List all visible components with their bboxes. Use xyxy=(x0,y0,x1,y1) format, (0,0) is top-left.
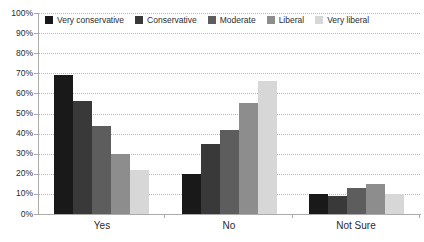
legend-swatch-icon xyxy=(315,16,323,24)
bar-moderate-yes xyxy=(92,126,111,214)
bar-very-conservative-no xyxy=(182,174,201,214)
bar-liberal-no xyxy=(239,103,258,214)
legend-label: Very conservative xyxy=(57,15,124,25)
x-axis-category-label: Yes xyxy=(52,220,152,231)
y-axis-tick-label: 80% xyxy=(0,48,33,59)
bar-moderate-not-sure xyxy=(347,188,366,214)
y-axis-tick-label: 10% xyxy=(0,188,33,199)
bar-very-liberal-yes xyxy=(130,170,149,214)
y-axis-tick xyxy=(34,134,38,135)
legend-label: Conservative xyxy=(147,15,197,25)
legend-item-liberal: Liberal xyxy=(267,15,305,25)
gridline xyxy=(39,114,420,115)
bar-very-conservative-not-sure xyxy=(309,194,328,214)
x-axis-category-label: No xyxy=(179,220,279,231)
x-axis-tick xyxy=(292,214,293,218)
legend-swatch-icon xyxy=(267,16,275,24)
bar-very-liberal-not-sure xyxy=(385,194,404,214)
gridline xyxy=(39,33,420,34)
bar-very-conservative-yes xyxy=(54,75,73,214)
bar-conservative-not-sure xyxy=(328,196,347,214)
y-axis-tick-label: 50% xyxy=(0,108,33,119)
bar-conservative-yes xyxy=(73,101,92,214)
legend-label: Moderate xyxy=(220,15,256,25)
bar-liberal-not-sure xyxy=(366,184,385,214)
legend-swatch-icon xyxy=(135,16,143,24)
legend: Very conservativeConservativeModerateLib… xyxy=(45,15,369,25)
bar-moderate-no xyxy=(220,130,239,214)
legend-label: Very liberal xyxy=(327,15,369,25)
y-axis-tick xyxy=(34,114,38,115)
y-axis-tick-label: 20% xyxy=(0,168,33,179)
y-axis-tick-label: 90% xyxy=(0,28,33,39)
y-axis-tick-label: 70% xyxy=(0,68,33,79)
y-axis-tick xyxy=(34,53,38,54)
y-axis-tick-label: 60% xyxy=(0,88,33,99)
bar-conservative-no xyxy=(201,144,220,214)
legend-swatch-icon xyxy=(208,16,216,24)
bar-liberal-yes xyxy=(111,154,130,214)
legend-label: Liberal xyxy=(279,15,305,25)
y-axis-tick xyxy=(34,154,38,155)
y-axis-tick xyxy=(34,174,38,175)
grouped-bar-chart: Very conservativeConservativeModerateLib… xyxy=(0,0,424,242)
x-axis-category-label: Not Sure xyxy=(306,220,406,231)
y-axis-tick xyxy=(34,73,38,74)
x-axis-tick xyxy=(164,214,165,218)
y-axis-tick xyxy=(34,13,38,14)
y-axis-tick-label: 100% xyxy=(0,8,33,19)
gridline xyxy=(39,53,420,54)
y-axis-tick-label: 0% xyxy=(0,209,33,220)
y-axis-tick xyxy=(34,93,38,94)
gridline xyxy=(39,13,420,14)
legend-swatch-icon xyxy=(45,16,53,24)
y-axis-tick xyxy=(34,33,38,34)
gridline xyxy=(39,93,420,94)
legend-item-moderate: Moderate xyxy=(208,15,256,25)
gridline xyxy=(39,73,420,74)
y-axis-tick-label: 30% xyxy=(0,148,33,159)
legend-item-very-liberal: Very liberal xyxy=(315,15,369,25)
y-axis-tick xyxy=(34,194,38,195)
legend-item-conservative: Conservative xyxy=(135,15,197,25)
y-axis-tick-label: 40% xyxy=(0,128,33,139)
bar-very-liberal-no xyxy=(258,81,277,214)
y-axis-tick xyxy=(34,214,38,215)
x-axis-tick xyxy=(419,214,420,218)
legend-item-very-conservative: Very conservative xyxy=(45,15,124,25)
